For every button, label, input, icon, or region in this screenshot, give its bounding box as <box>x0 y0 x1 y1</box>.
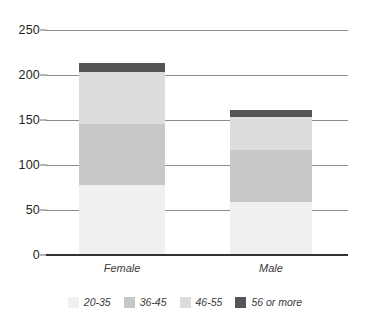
plot-area <box>46 30 348 255</box>
legend-swatch-56-or-more-icon <box>235 297 246 308</box>
y-axis: 250 200 150 100 50 0 <box>0 30 40 255</box>
legend-item-56-or-more[interactable]: 56 or more <box>235 296 302 308</box>
bar-segment-female-36-45[interactable] <box>79 124 165 185</box>
legend-swatch-36-45-icon <box>124 297 135 308</box>
legend-item-36-45[interactable]: 36-45 <box>124 296 167 308</box>
x-category-label-male: Male <box>230 262 312 274</box>
bar-segment-female-46-55[interactable] <box>79 72 165 123</box>
bar-female[interactable] <box>79 63 165 255</box>
legend-swatch-46-55-icon <box>180 297 191 308</box>
axis-baseline <box>46 254 348 256</box>
y-tick-label-50: 50 <box>26 203 40 217</box>
gridline-250 <box>46 30 348 31</box>
legend-label-20-35: 20-35 <box>84 296 111 308</box>
y-tick-label-200: 200 <box>19 68 40 82</box>
bar-segment-male-20-35[interactable] <box>230 202 312 255</box>
bar-male[interactable] <box>230 110 312 255</box>
y-tick-label-0: 0 <box>33 248 40 262</box>
y-tick-label-100: 100 <box>19 158 40 172</box>
y-tick-label-150: 150 <box>19 113 40 127</box>
legend-swatch-20-35-icon <box>68 297 79 308</box>
bar-segment-male-36-45[interactable] <box>230 150 312 202</box>
legend-item-46-55[interactable]: 46-55 <box>180 296 223 308</box>
legend-label-36-45: 36-45 <box>140 296 167 308</box>
x-category-label-female: Female <box>79 262 165 274</box>
bar-segment-male-56-or-more[interactable] <box>230 110 312 117</box>
bar-segment-female-56-or-more[interactable] <box>79 63 165 72</box>
legend: 20-35 36-45 46-55 56 or more <box>0 296 370 308</box>
bar-segment-male-46-55[interactable] <box>230 117 312 149</box>
legend-label-56-or-more: 56 or more <box>251 296 302 308</box>
legend-label-46-55: 46-55 <box>196 296 223 308</box>
stacked-bar-chart: 250 200 150 100 50 0 <box>0 0 370 324</box>
bar-segment-female-20-35[interactable] <box>79 185 165 255</box>
legend-item-20-35[interactable]: 20-35 <box>68 296 111 308</box>
y-tick-label-250: 250 <box>19 23 40 37</box>
